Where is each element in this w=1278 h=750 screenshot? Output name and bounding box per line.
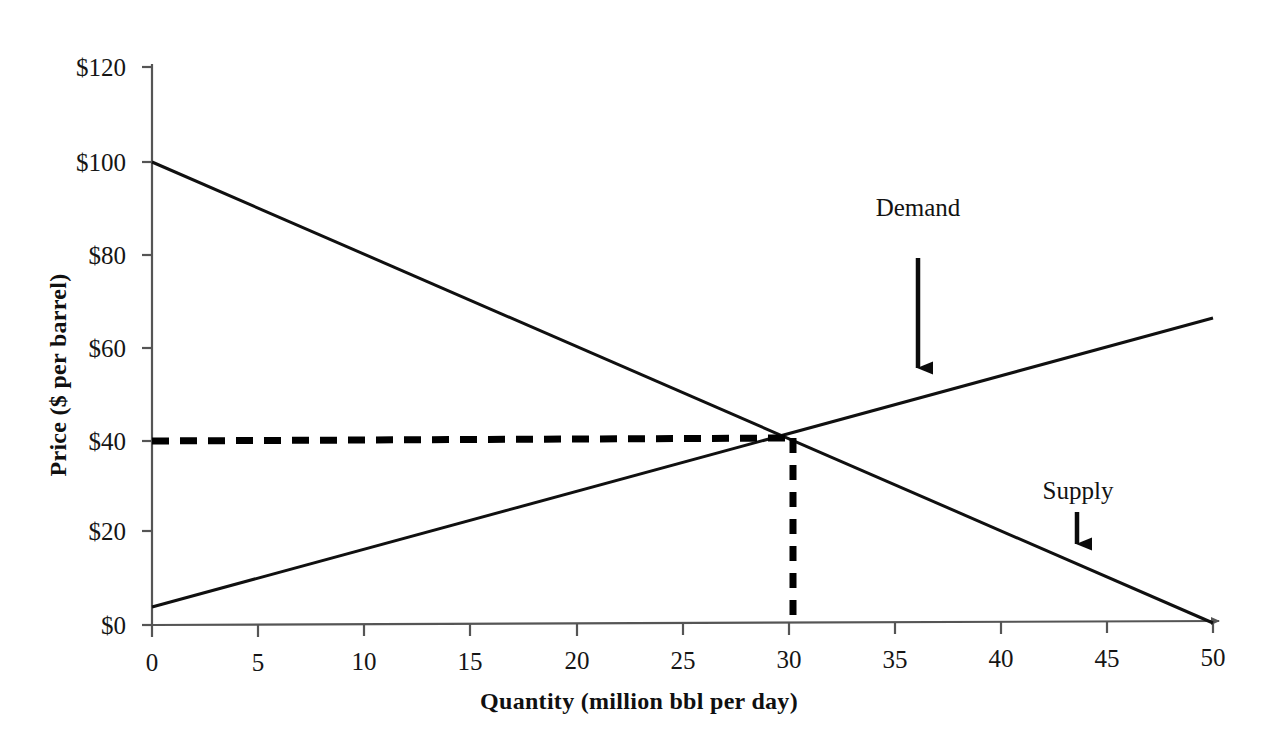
x-tick-label-15: 15 <box>458 649 483 674</box>
x-tick-label-0: 0 <box>146 650 159 675</box>
supply-curve-label: Supply <box>1043 478 1114 503</box>
y-axis-title: Price ($ per barrel) <box>45 273 72 476</box>
y-axis-ticks <box>142 67 152 625</box>
x-axis-title: Quantity (million bbl per day) <box>480 688 798 715</box>
y-tick-label-120: $120 <box>48 55 126 80</box>
x-tick-label-25: 25 <box>671 648 696 673</box>
x-tick-label-35: 35 <box>883 647 908 672</box>
y-tick-label-20: $20 <box>48 519 126 544</box>
y-tick-label-0: $0 <box>48 613 126 638</box>
x-tick-label-10: 10 <box>352 649 377 674</box>
upward-sloping-curve <box>152 318 1213 607</box>
demand-curve-label: Demand <box>876 195 961 220</box>
downward-sloping-curve <box>152 162 1213 623</box>
x-tick-label-5: 5 <box>252 650 265 675</box>
x-tick-label-45: 45 <box>1095 646 1120 671</box>
plot-canvas <box>0 0 1278 750</box>
x-axis-line <box>152 621 1219 625</box>
equilibrium-price-guide <box>152 438 793 441</box>
x-tick-label-50: 50 <box>1201 645 1226 670</box>
x-tick-label-30: 30 <box>777 647 802 672</box>
x-tick-label-20: 20 <box>565 648 590 673</box>
y-tick-label-80: $80 <box>48 243 126 268</box>
x-tick-label-40: 40 <box>989 646 1014 671</box>
supply-demand-chart: $120 $100 $80 $60 $40 $20 $0 0 5 10 15 2… <box>0 0 1278 750</box>
y-tick-label-100: $100 <box>48 150 126 175</box>
